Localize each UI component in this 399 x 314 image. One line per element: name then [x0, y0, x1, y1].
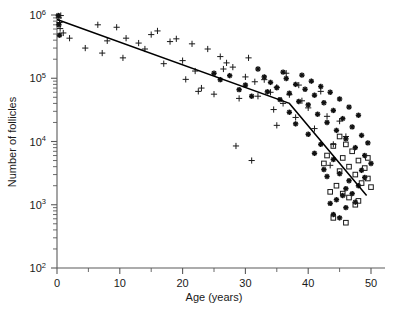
data-point-asterisk	[265, 89, 270, 94]
data-point-asterisk	[353, 145, 358, 150]
data-point-plus	[293, 114, 299, 120]
data-point-asterisk	[334, 128, 339, 133]
data-point-square	[340, 156, 345, 161]
data-point-asterisk	[324, 174, 329, 179]
data-point-asterisk	[318, 84, 323, 89]
data-point-asterisk	[337, 215, 342, 220]
data-point-square	[337, 134, 342, 139]
y-axis-title: Number of follicles	[6, 96, 18, 187]
data-point-asterisk	[296, 99, 301, 104]
data-point-asterisk	[343, 205, 348, 210]
data-point-plus	[66, 35, 72, 41]
data-point-plus	[173, 36, 179, 42]
data-point-square	[322, 161, 327, 166]
data-point-plus	[205, 46, 211, 52]
data-point-plus	[217, 53, 223, 59]
data-point-plus	[123, 35, 129, 41]
y-tick-label: 102	[30, 261, 46, 275]
data-point-asterisk	[299, 72, 304, 77]
data-point-asterisk	[331, 108, 336, 113]
data-point-plus	[189, 41, 195, 47]
y-tick-label: 103	[30, 197, 46, 211]
data-point-plus	[82, 45, 88, 51]
data-point-asterisk	[346, 104, 351, 109]
data-point-plus	[274, 122, 280, 128]
data-point-asterisk	[362, 175, 367, 180]
data-point-square	[369, 185, 374, 190]
data-point-plus	[236, 95, 242, 101]
data-point-asterisk	[327, 201, 332, 206]
data-point-plus	[198, 85, 204, 91]
data-points-layer	[56, 12, 374, 225]
data-point-plus	[136, 40, 142, 46]
data-point-asterisk	[346, 178, 351, 183]
data-point-asterisk	[56, 22, 61, 27]
data-point-asterisk	[315, 112, 320, 117]
y-tick-label: 104	[30, 134, 46, 148]
data-point-asterisk	[306, 102, 311, 107]
data-point-asterisk	[293, 121, 298, 126]
data-point-asterisk	[284, 76, 289, 81]
x-axis-tick-labels: 01020304050	[54, 277, 377, 289]
data-point-square	[353, 172, 358, 177]
data-point-plus	[327, 162, 333, 168]
data-point-plus	[161, 61, 167, 67]
data-point-asterisk	[227, 73, 232, 78]
data-point-asterisk	[236, 87, 241, 92]
x-axis-minor-ticks	[88, 268, 339, 272]
data-point-asterisk	[359, 133, 364, 138]
data-point-asterisk	[268, 80, 273, 85]
data-point-asterisk	[327, 90, 332, 95]
data-point-square	[328, 190, 333, 195]
data-point-asterisk	[57, 32, 62, 37]
data-point-square	[356, 158, 361, 163]
data-point-asterisk	[356, 113, 361, 118]
data-point-plus	[120, 55, 126, 61]
data-point-asterisk	[321, 100, 326, 105]
data-point-asterisk	[334, 197, 339, 202]
data-point-asterisk	[302, 87, 307, 92]
data-point-plus	[255, 93, 261, 99]
data-point-plus	[148, 31, 154, 37]
axis-lines	[57, 15, 385, 268]
data-point-asterisk	[312, 92, 317, 97]
data-point-asterisk	[312, 151, 317, 156]
data-point-square	[325, 153, 330, 158]
x-tick-label: 40	[302, 277, 314, 289]
x-tick-label: 0	[54, 277, 60, 289]
data-point-asterisk	[293, 82, 298, 87]
data-point-asterisk	[337, 96, 342, 101]
data-point-plus	[114, 24, 120, 30]
data-point-asterisk	[368, 161, 373, 166]
data-point-asterisk	[340, 116, 345, 121]
data-point-square	[344, 142, 349, 147]
biphasic-regression-line	[57, 20, 367, 196]
data-point-asterisk	[255, 66, 260, 71]
data-point-plus	[154, 28, 160, 34]
x-axis-title: Age (years)	[186, 291, 243, 303]
y-axis-tick-labels: 102103104105106	[30, 8, 46, 275]
data-point-plus	[167, 38, 173, 44]
y-axis-minor-ticks	[53, 18, 57, 249]
follicle-decline-chart: 102103104105106 01020304050 Age (years) …	[0, 0, 399, 314]
plot-canvas: 102103104105106 01020304050 Age (years) …	[0, 0, 399, 314]
data-point-asterisk	[343, 136, 348, 141]
data-point-square	[344, 220, 349, 225]
data-point-asterisk	[324, 120, 329, 125]
data-point-plus	[245, 55, 251, 61]
data-point-asterisk	[365, 140, 370, 145]
y-tick-label: 105	[30, 71, 46, 85]
data-point-square	[334, 183, 339, 188]
data-point-plus	[95, 22, 101, 28]
data-point-plus	[242, 74, 248, 80]
data-point-plus	[195, 88, 201, 94]
data-point-asterisk	[321, 167, 326, 172]
data-point-plus	[99, 50, 105, 56]
data-point-asterisk	[249, 94, 254, 99]
data-point-asterisk	[287, 110, 292, 115]
data-point-plus	[233, 143, 239, 149]
data-point-plus	[271, 106, 277, 112]
data-point-plus	[324, 113, 330, 119]
data-point-asterisk	[309, 78, 314, 83]
data-point-asterisk	[56, 13, 61, 18]
